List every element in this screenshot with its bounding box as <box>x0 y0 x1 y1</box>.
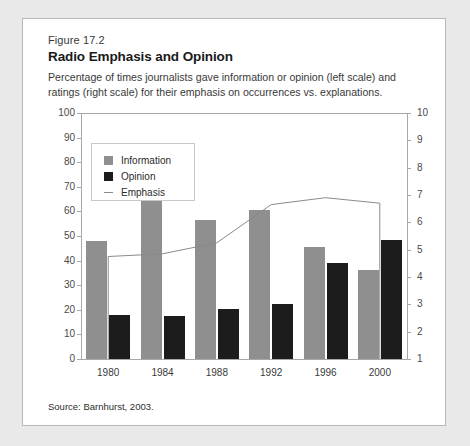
right-axis-tick <box>407 113 411 114</box>
right-axis-tick <box>407 332 411 333</box>
left-axis-tick-label: 60 <box>49 206 75 216</box>
right-axis-tick-label: 10 <box>417 108 439 118</box>
left-axis-tick-label: 100 <box>49 108 75 118</box>
legend-item-label: Information <box>121 155 171 166</box>
bar-information <box>304 247 325 359</box>
x-axis-tick-label: 1984 <box>138 367 188 378</box>
bar-opinion <box>272 304 293 359</box>
left-axis-tick-label: 40 <box>49 256 75 266</box>
right-axis-tick-label: 9 <box>417 135 439 145</box>
right-axis-tick-label: 8 <box>417 163 439 173</box>
left-axis-tick <box>77 310 81 311</box>
emphasis-line-series <box>23 19 447 427</box>
bar-opinion <box>381 240 402 359</box>
legend-item-information: Information <box>104 155 171 166</box>
right-axis-line <box>407 113 408 360</box>
bar-information <box>249 210 270 359</box>
right-axis-tick <box>407 195 411 196</box>
left-axis-tick-label: 80 <box>49 157 75 167</box>
left-axis-tick-label: 30 <box>49 280 75 290</box>
legend-item-label: Opinion <box>121 171 155 182</box>
left-axis-tick <box>77 138 81 139</box>
left-axis-tick-label: 50 <box>49 231 75 241</box>
left-axis-line <box>81 113 82 360</box>
right-axis-tick <box>407 222 411 223</box>
x-axis-tick-label: 1980 <box>83 367 133 378</box>
left-axis-tick <box>77 113 81 114</box>
right-axis-tick <box>407 140 411 141</box>
bar-information <box>195 220 216 359</box>
left-axis-tick <box>77 236 81 237</box>
bar-opinion <box>327 263 348 359</box>
left-axis-tick <box>77 211 81 212</box>
legend-square-icon <box>104 156 113 165</box>
left-axis-tick-label: 70 <box>49 182 75 192</box>
right-axis-tick-label: 1 <box>417 354 439 364</box>
left-axis-tick <box>77 285 81 286</box>
chart-plot-area: 0102030405060708090100 12345678910 19801… <box>23 19 447 427</box>
top-axis-line <box>81 113 408 114</box>
legend-item-emphasis: Emphasis <box>104 187 165 198</box>
right-axis-tick-label: 2 <box>417 327 439 337</box>
legend-line-icon <box>104 188 113 197</box>
right-axis-tick-label: 3 <box>417 299 439 309</box>
legend-item-label: Emphasis <box>121 187 165 198</box>
figure-panel: Figure 17.2 Radio Emphasis and Opinion P… <box>22 18 446 426</box>
right-axis-tick-label: 7 <box>417 190 439 200</box>
x-axis-tick-label: 1996 <box>301 367 351 378</box>
x-axis-tick-label: 1992 <box>246 367 296 378</box>
left-axis-tick-label: 0 <box>49 354 75 364</box>
left-axis-tick <box>77 162 81 163</box>
x-axis-tick-label: 2000 <box>355 367 405 378</box>
right-axis-tick-label: 5 <box>417 245 439 255</box>
right-axis-tick-label: 6 <box>417 217 439 227</box>
right-axis-tick <box>407 277 411 278</box>
left-axis-tick <box>77 334 81 335</box>
right-axis-tick <box>407 168 411 169</box>
right-axis-tick <box>407 359 411 360</box>
chart-legend: InformationOpinionEmphasis <box>91 143 195 201</box>
right-axis-tick-label: 4 <box>417 272 439 282</box>
bar-information <box>86 241 107 359</box>
left-axis-tick <box>77 359 81 360</box>
x-axis-tick-label: 1988 <box>192 367 242 378</box>
bar-opinion <box>109 315 130 359</box>
bar-information <box>358 270 379 359</box>
left-axis-tick-label: 90 <box>49 133 75 143</box>
right-axis-tick <box>407 304 411 305</box>
left-axis-tick <box>77 261 81 262</box>
left-axis-tick <box>77 187 81 188</box>
legend-item-opinion: Opinion <box>104 171 155 182</box>
left-axis-tick-label: 10 <box>49 329 75 339</box>
left-axis-tick-label: 20 <box>49 305 75 315</box>
bar-opinion <box>164 316 185 359</box>
bar-opinion <box>218 309 239 359</box>
bar-information <box>141 199 162 359</box>
right-axis-tick <box>407 250 411 251</box>
x-axis-line <box>81 359 408 360</box>
legend-square-icon <box>104 172 113 181</box>
source-note: Source: Barnhurst, 2003. <box>48 401 154 413</box>
